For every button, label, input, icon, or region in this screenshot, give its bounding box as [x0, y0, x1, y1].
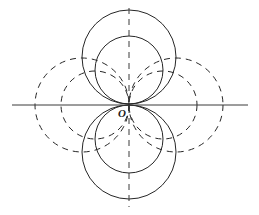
circle-rosette-figure — [0, 0, 259, 215]
axes-group — [12, 8, 248, 207]
figure-container: O — [0, 0, 259, 215]
origin-label: O — [118, 108, 126, 119]
